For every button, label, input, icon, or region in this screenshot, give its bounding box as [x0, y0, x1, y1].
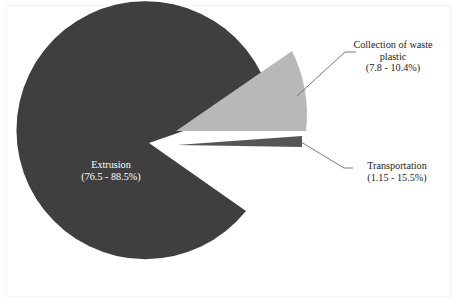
slice-label-extrusion-line-1: Extrusion — [52, 159, 170, 171]
pie-slice-transportation[interactable] — [177, 136, 302, 147]
slice-label-collection-line-1: Collection of waste — [337, 39, 449, 51]
slice-label-collection-of-waste-plastic: Collection of waste plastic (7.8 - 10.4%… — [337, 39, 449, 74]
slice-label-extrusion: Extrusion (76.5 - 88.5%) — [52, 159, 170, 182]
slice-label-transportation-line-1: Transportation — [345, 160, 449, 172]
pie-chart-figure: Collection of waste plastic (7.8 - 10.4%… — [0, 0, 458, 305]
slice-label-collection-line-2: plastic — [337, 51, 449, 63]
slice-label-collection-range: (7.8 - 10.4%) — [337, 62, 449, 74]
slice-label-transportation-range: (1.15 - 15.5%) — [345, 172, 449, 184]
slice-label-transportation: Transportation (1.15 - 15.5%) — [345, 160, 449, 183]
slice-label-extrusion-range: (76.5 - 88.5%) — [52, 171, 170, 183]
